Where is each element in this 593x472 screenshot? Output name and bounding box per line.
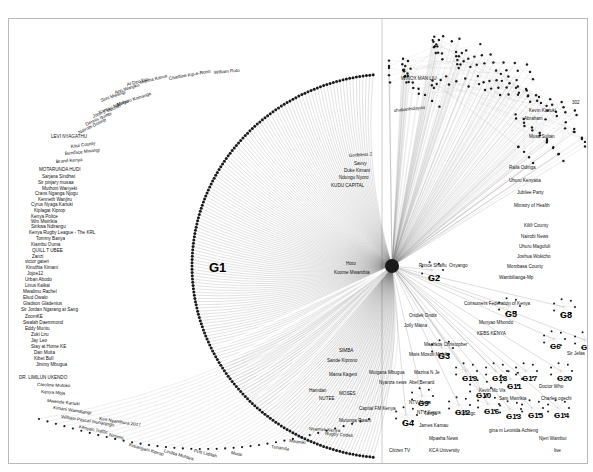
node-label: Capital FM Kenya bbox=[359, 407, 396, 412]
node-label: Musa Sultan bbox=[529, 135, 555, 140]
node-label: LEVI NYAGATHU bbox=[51, 135, 87, 140]
node-label: Jimmy Mbugua bbox=[36, 363, 67, 368]
group-label-g20: G20 bbox=[557, 375, 572, 383]
node-label: Sande Kiprono bbox=[327, 359, 357, 364]
node-label: Jolly Maina bbox=[404, 324, 427, 329]
node-label: QUILL T UBEE bbox=[32, 249, 63, 254]
node-label: Onyango bbox=[449, 264, 468, 269]
node-label: Joshua Wokicho bbox=[517, 255, 551, 260]
node-label: NTV News bbox=[409, 401, 431, 406]
node-label: Abraham bbox=[524, 117, 543, 122]
node-label: Consumers Federation of Kenya bbox=[464, 302, 530, 307]
node-label: Njeri Wambui bbox=[539, 437, 566, 442]
node-label: NUTEE bbox=[319, 397, 335, 402]
node-label: Doctor Who bbox=[539, 385, 563, 390]
group-label-g14: G14 bbox=[554, 412, 569, 420]
group-label-g1: G1 bbox=[209, 261, 226, 274]
node-label: Nyanza news bbox=[379, 381, 407, 386]
node-label: WINOX MAN LIU bbox=[401, 77, 436, 82]
group-label-g4: G4 bbox=[402, 419, 414, 428]
node-label: Zuki Liru bbox=[31, 333, 49, 338]
node-label: Cyrus Nyaga Kariuki bbox=[31, 203, 73, 208]
node-label: Raila Odinga bbox=[509, 166, 536, 171]
node-label: MOSES bbox=[339, 392, 356, 397]
node-label: Mwalimu Rachel bbox=[23, 290, 57, 295]
node-label: Kiplagat Kiprop bbox=[34, 209, 65, 214]
node-label: ZoomKE bbox=[25, 315, 43, 320]
node-label: Mwis Mosoti Mobile bbox=[409, 353, 449, 358]
group-label-g5: G5 bbox=[505, 310, 517, 319]
node-label: Hamdan bbox=[309, 389, 326, 394]
node-label: MOTARUNDA HUDI bbox=[39, 168, 81, 173]
node-label: Uhuru Kenyatta bbox=[509, 179, 541, 184]
node-label: Eddy Muntu bbox=[25, 327, 50, 332]
node-label: Hoto bbox=[346, 262, 356, 267]
group-label-g18: G18 bbox=[492, 375, 507, 383]
node-label: Gladson Gladenius bbox=[23, 302, 62, 307]
node-label: KUDU CAPITAL bbox=[331, 184, 364, 189]
node-label: Charles ogechi bbox=[541, 397, 572, 402]
node-label: Linus Kaikai bbox=[25, 284, 50, 289]
node-label: Ministry of Health bbox=[514, 204, 550, 209]
node-label: Kiambu Ouma bbox=[31, 243, 60, 248]
node-label: Nairobi News bbox=[521, 235, 548, 240]
node-label: Ndungu Nyoro bbox=[339, 176, 369, 181]
group-label-g6: G6 bbox=[550, 343, 561, 351]
node-label: SIMBA bbox=[339, 349, 353, 354]
group-label-g2: G2 bbox=[428, 274, 440, 283]
node-label: Crans Nganga Njogu bbox=[35, 192, 78, 197]
node-label: KEBS KENYA bbox=[477, 332, 506, 337]
node-label: Mutunga Pwani bbox=[339, 419, 371, 424]
node-label: Uhuru Magufuli bbox=[519, 245, 550, 250]
node-label: Muigana Mbugua bbox=[369, 371, 405, 376]
node-label: Munyao Mbondo bbox=[479, 321, 513, 326]
node-label: Sirikwa Ndirangu bbox=[31, 225, 66, 230]
node-label: Kevin Mc Vis bbox=[479, 389, 505, 394]
group-label-g13: G13 bbox=[506, 413, 521, 421]
node-label: Kenya Rugby League - The KRL bbox=[29, 231, 95, 236]
node-label: Eliud Owalo bbox=[23, 296, 48, 301]
node-label: Kilifi County bbox=[524, 224, 548, 229]
node-label: Swalah Daemmond bbox=[23, 321, 63, 326]
node-label: Urban Abodo bbox=[25, 278, 52, 283]
node-label: Kipkngc bbox=[459, 412, 475, 417]
node-label: Tommy Banya bbox=[36, 237, 65, 242]
node-label: Sarjana Sindhwi bbox=[42, 175, 75, 180]
node-label: Kinuthia Kimani bbox=[26, 266, 58, 271]
node-label: Abel Benard bbox=[409, 381, 434, 386]
node-label: Jojoe12 bbox=[27, 272, 43, 277]
group-label-g8: G8 bbox=[560, 311, 572, 320]
network-graph-canvas: G1G2G3G4G5G6G7G8G9G10G11G12G13G14G15G16G… bbox=[8, 18, 588, 464]
node-label: Jay Leo bbox=[31, 339, 47, 344]
node-label: Wambilianga-Mp bbox=[499, 276, 533, 281]
node-label: NTV Kenya bbox=[417, 411, 441, 416]
node-label: Sir Jefas bbox=[567, 352, 585, 357]
node-label: Sir pinjary musaa bbox=[38, 181, 74, 186]
node-label: Maina Kageni bbox=[329, 373, 357, 378]
node-label: live bbox=[554, 449, 561, 454]
node-label: Stay at Home KE bbox=[31, 345, 66, 350]
node-label: Prince Shaffu bbox=[419, 264, 447, 269]
node-label: Machkos Christopher bbox=[424, 343, 467, 348]
node-label: James Kamau bbox=[419, 424, 448, 429]
node-label: Jubilee Party bbox=[517, 191, 544, 196]
figure-root: G1G2G3G4G5G6G7G8G9G10G11G12G13G14G15G16G… bbox=[0, 0, 593, 472]
node-label: Sir Jordan Ngarang at Sang bbox=[21, 308, 78, 313]
node-label: 302 bbox=[572, 101, 580, 106]
node-label: Duke Kimani bbox=[344, 169, 370, 174]
group-label-g19: G19 bbox=[462, 375, 477, 383]
node-label: Mpasha News bbox=[429, 437, 458, 442]
node-label: Kibet Bull bbox=[34, 357, 53, 362]
central-hub-node bbox=[385, 259, 399, 273]
node-label: Ondiek Ondis bbox=[409, 314, 437, 319]
group-label-g16: G16 bbox=[484, 408, 499, 416]
node-label: gina m Leonida Achieng bbox=[489, 429, 538, 434]
node-label: KCA University bbox=[429, 449, 460, 454]
group-label-g15: G15 bbox=[528, 412, 543, 420]
node-label: Koome Mwambia bbox=[334, 271, 370, 276]
group-label-g17: G17 bbox=[522, 375, 537, 383]
node-label: Sam Mwirikia bbox=[499, 397, 526, 402]
node-label: Mazina N Je bbox=[414, 371, 440, 376]
node-label: victor gateri bbox=[25, 260, 49, 265]
node-label: Kevin Kariuki bbox=[529, 109, 556, 114]
